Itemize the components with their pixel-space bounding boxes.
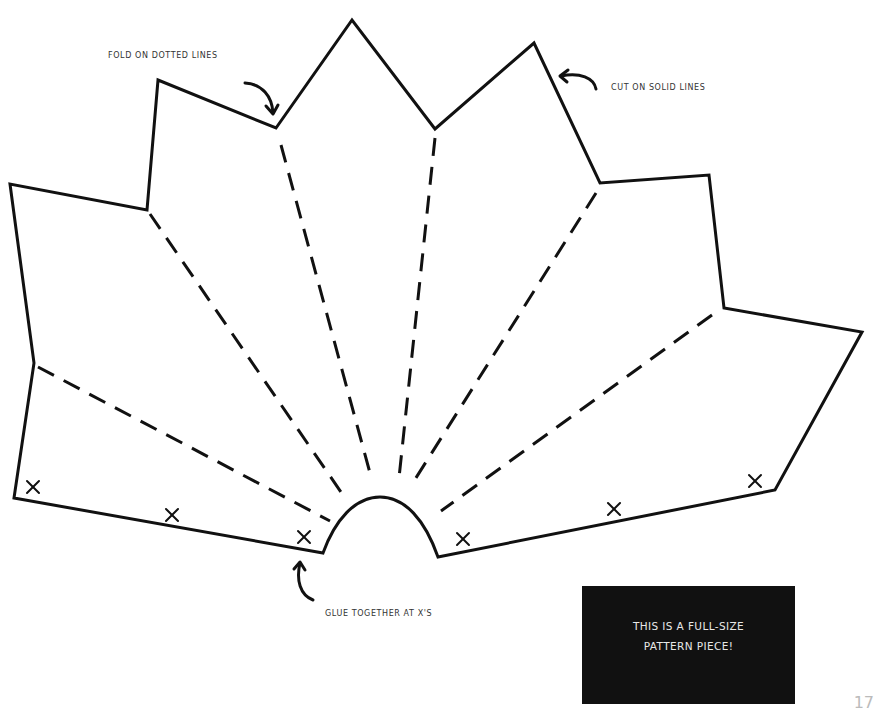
fold-line-1 (38, 367, 330, 521)
glue-x-mark (608, 503, 620, 515)
cut-arrow-icon (560, 70, 596, 89)
cut-outline (10, 20, 862, 557)
glue-arrow-icon (294, 562, 313, 600)
fold-line-5 (414, 193, 596, 481)
fold-line-6 (441, 315, 712, 511)
full-size-note-box: THIS IS A FULL-SIZE PATTERN PIECE! (582, 586, 795, 704)
glue-x-mark (298, 531, 310, 543)
full-size-note-text: THIS IS A FULL-SIZE PATTERN PIECE! (582, 616, 795, 656)
fold-line-4 (399, 138, 435, 478)
cut-instruction-label: CUT ON SOLID LINES (611, 83, 705, 92)
glue-instruction-label: GLUE TOGETHER AT X'S (325, 609, 432, 618)
fold-arrow-icon (245, 83, 278, 114)
note-line-2: PATTERN PIECE! (582, 636, 795, 656)
page-number: 17 (854, 693, 874, 712)
glue-x-mark (457, 533, 469, 545)
fold-instruction-label: FOLD ON DOTTED LINES (108, 51, 218, 60)
fold-lines (38, 138, 712, 521)
fold-line-3 (281, 145, 370, 473)
glue-marks (27, 475, 761, 545)
fold-line-2 (150, 214, 343, 495)
glue-x-mark (166, 509, 178, 521)
glue-x-mark (749, 475, 761, 487)
note-line-1: THIS IS A FULL-SIZE (582, 616, 795, 636)
glue-x-mark (27, 481, 39, 493)
